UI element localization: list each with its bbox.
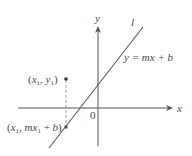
origin-label: 0 xyxy=(90,109,96,121)
line-name-label: l xyxy=(131,16,134,28)
point-on-line xyxy=(65,126,68,129)
line-l xyxy=(49,27,143,148)
diagram-canvas: x y 0 l y = mx + b (x1, y1) (x1, mx1 + b… xyxy=(0,0,192,156)
y-axis-label: y xyxy=(94,12,100,24)
x-axis xyxy=(18,105,173,111)
y-axis xyxy=(95,26,101,146)
line-equation-label: y = mx + b xyxy=(123,51,174,63)
point-on-line-label: (x1, mx1 + b) xyxy=(7,121,62,135)
x-axis-label: x xyxy=(176,102,182,114)
point-x1-y1 xyxy=(64,77,68,81)
diagram-svg: x y 0 l y = mx + b (x1, y1) (x1, mx1 + b… xyxy=(0,0,192,156)
point-x1-y1-label: (x1, y1) xyxy=(28,73,58,87)
